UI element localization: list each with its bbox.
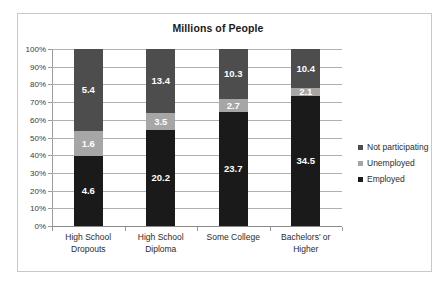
x-axis-category-label: Bachelors' orHigher — [263, 232, 349, 255]
x-axis-category-label-line: Bachelors' or — [263, 232, 349, 244]
chart-title: Millions of People — [78, 22, 358, 34]
legend-swatch-icon — [358, 161, 363, 166]
y-axis-tick-label: 90% — [30, 62, 46, 71]
bar-segment-value-label: 13.4 — [152, 76, 171, 86]
bar-segment-value-label: 1.6 — [82, 139, 95, 149]
bar-segment[interactable]: 10.4 — [291, 49, 320, 88]
bar-segment[interactable]: 10.3 — [219, 49, 248, 99]
y-axis-tick — [48, 84, 52, 85]
bar-segment[interactable]: 23.7 — [219, 112, 248, 226]
y-axis-tick — [48, 155, 52, 156]
legend-swatch-icon — [358, 177, 363, 182]
plot-area: 4.61.65.420.23.513.423.72.710.334.52.110… — [52, 49, 342, 226]
legend-label: Unemployed — [367, 158, 415, 168]
x-axis-tick — [197, 227, 198, 231]
bar-segment-value-label: 10.3 — [224, 69, 243, 79]
legend-label: Employed — [367, 174, 405, 184]
y-axis-tick-label: 100% — [26, 45, 46, 54]
y-axis-tick — [48, 102, 52, 103]
legend-swatch-icon — [358, 145, 363, 150]
bar-segment[interactable]: 1.6 — [74, 131, 103, 155]
bar-column[interactable]: 4.61.65.4 — [74, 49, 103, 226]
x-axis-labels: High SchoolDropoutsHigh SchoolDiplomaSom… — [52, 232, 342, 272]
y-axis-tick — [48, 173, 52, 174]
y-axis-tick-label: 20% — [30, 186, 46, 195]
legend-item[interactable]: Employed — [358, 171, 448, 187]
bar-segment[interactable]: 13.4 — [146, 49, 175, 113]
bar-segment[interactable]: 2.7 — [219, 99, 248, 112]
bar-segment[interactable]: 20.2 — [146, 130, 175, 226]
y-axis-labels: 100%90%80%70%60%50%40%30%20%10%0% — [18, 49, 49, 226]
bar-segment-value-label: 2.7 — [227, 101, 240, 111]
bar-segment[interactable]: 5.4 — [74, 49, 103, 131]
y-axis-tick — [48, 120, 52, 121]
chart-legend: Not participatingUnemployedEmployed — [358, 139, 448, 187]
y-axis-tick-label: 80% — [30, 80, 46, 89]
bar-column[interactable]: 20.23.513.4 — [146, 49, 175, 226]
legend-label: Not participating — [367, 142, 428, 152]
bar-segment-value-label: 5.4 — [82, 85, 95, 95]
bar-column[interactable]: 23.72.710.3 — [219, 49, 248, 226]
bar-segment[interactable]: 3.5 — [146, 113, 175, 130]
bar-segment[interactable]: 2.1 — [291, 88, 320, 96]
bar-segment-value-label: 3.5 — [154, 117, 167, 127]
bar-segment-value-label: 23.7 — [224, 164, 243, 174]
x-axis-tick — [270, 227, 271, 231]
bar-segment-value-label: 20.2 — [152, 173, 171, 183]
bar-segment[interactable]: 4.6 — [74, 156, 103, 226]
x-axis-tick — [125, 227, 126, 231]
y-axis-tick-label: 50% — [30, 133, 46, 142]
y-axis-tick — [48, 67, 52, 68]
x-axis-category-label-line: Diploma — [118, 244, 204, 256]
y-axis-tick-label: 40% — [30, 151, 46, 160]
bar-segment-value-label: 10.4 — [297, 64, 316, 74]
x-axis-tick — [52, 227, 53, 231]
y-axis-tick-label: 30% — [30, 168, 46, 177]
bar-segment-value-label: 4.6 — [82, 186, 95, 196]
y-axis-tick — [48, 138, 52, 139]
bar-segment[interactable]: 34.5 — [291, 96, 320, 226]
y-axis-tick — [48, 191, 52, 192]
y-axis-tick-label: 70% — [30, 98, 46, 107]
x-axis-category-label-line: Higher — [263, 244, 349, 256]
chart-frame: Millions of People 100%90%80%70%60%50%40… — [17, 13, 432, 272]
y-axis-tick — [48, 208, 52, 209]
bar-segment-value-label: 34.5 — [297, 156, 316, 166]
x-axis-tick — [342, 227, 343, 231]
legend-item[interactable]: Not participating — [358, 139, 448, 155]
y-axis-tick-label: 10% — [30, 204, 46, 213]
bar-segment-value-label: 2.1 — [299, 87, 312, 97]
y-axis-tick — [48, 49, 52, 50]
legend-item[interactable]: Unemployed — [358, 155, 448, 171]
y-axis-tick-label: 60% — [30, 115, 46, 124]
bar-column[interactable]: 34.52.110.4 — [291, 49, 320, 226]
y-axis-tick-label: 0% — [34, 222, 46, 231]
